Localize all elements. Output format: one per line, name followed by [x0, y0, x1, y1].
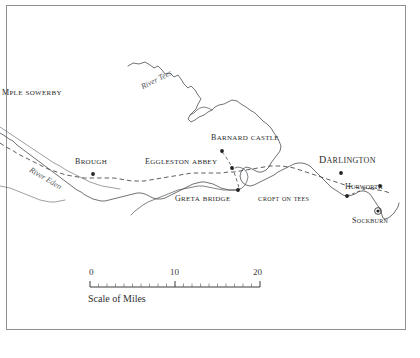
place-label-temple-sowerby: MPLE SOWERBY	[2, 86, 62, 98]
map-container: MPLE SOWERBY Brough Eggleston Abbey Barn…	[0, 0, 420, 358]
place-label-hurworth: Hurworth	[345, 180, 383, 191]
place-label-croft-on-tees: Croft on Tees	[258, 193, 309, 203]
place-label-brough: Brough	[75, 155, 107, 167]
place-label-darlington: Darlington	[319, 151, 376, 166]
scale-label-20: 20	[253, 268, 262, 277]
place-label-eggleston-abbey: Eggleston Abbey	[145, 155, 217, 167]
scale-caption: Scale of Miles	[88, 294, 146, 304]
map-frame-border	[6, 5, 406, 330]
scale-label-0: 0	[89, 268, 94, 277]
place-label-greta-bridge: Greta Bridge	[175, 192, 231, 204]
place-label-barnard-castle: Barnard Castle	[211, 131, 279, 143]
scale-label-10: 10	[170, 268, 179, 277]
place-label-sockburn: Sockburn	[352, 214, 388, 225]
